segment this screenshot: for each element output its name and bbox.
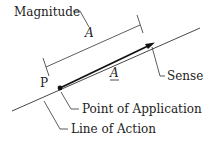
dimension-tick-end bbox=[137, 15, 143, 33]
line-of-action-leader bbox=[44, 101, 68, 129]
sense-leader bbox=[152, 47, 165, 76]
line-of-action-label: Line of Action bbox=[71, 122, 156, 136]
vector-arrow-shaft bbox=[60, 45, 150, 88]
dimension-tick-start bbox=[43, 58, 49, 76]
magnitude-label: Magnitude bbox=[14, 5, 80, 19]
arrowhead-icon bbox=[145, 43, 155, 50]
point-of-application-dot bbox=[58, 86, 63, 91]
point-of-application-leader bbox=[61, 92, 79, 109]
sense-label: Sense bbox=[167, 69, 203, 83]
vector-symbol: A bbox=[109, 66, 119, 80]
vector-diagram: Magnitude A A P Sense Point of Applicati… bbox=[0, 0, 215, 151]
point-of-application-label: Point of Application bbox=[82, 102, 202, 116]
point-label: P bbox=[40, 76, 48, 90]
magnitude-symbol: A bbox=[84, 26, 94, 40]
